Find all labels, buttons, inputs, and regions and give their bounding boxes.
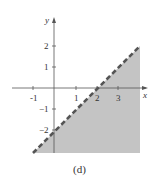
x-tick-label: 3 (116, 93, 121, 103)
y-axis-label: y (44, 15, 49, 25)
x-axis-label: x (142, 90, 147, 100)
y-tick-label: 2 (44, 41, 49, 51)
plot-svg: -1 1 2 3 2 1 −1 −2 x y (d) (0, 0, 159, 180)
y-tick-label: −1 (39, 104, 49, 114)
y-tick-label: 1 (44, 62, 49, 72)
y-axis-arrow-icon (52, 17, 56, 23)
figure-caption: (d) (73, 163, 86, 176)
y-tick-label: −2 (39, 125, 49, 135)
x-tick-label: -1 (30, 93, 38, 103)
x-tick-label: 1 (74, 93, 79, 103)
inequality-graph: -1 1 2 3 2 1 −1 −2 x y (d) (0, 0, 159, 180)
x-tick-label: 2 (95, 93, 100, 103)
